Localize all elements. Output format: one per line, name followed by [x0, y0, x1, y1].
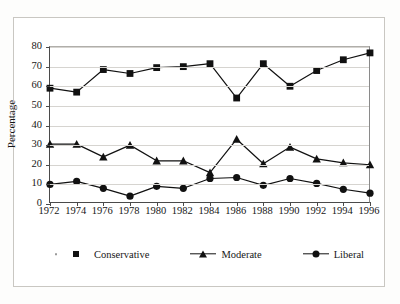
series-conservative — [47, 49, 374, 101]
data-point — [99, 153, 107, 161]
y-axis-tick-label: 10 — [32, 178, 43, 189]
data-point — [126, 193, 133, 200]
legend-item-moderate: Moderate — [190, 248, 261, 260]
square-marker-icon — [63, 248, 89, 260]
x-axis-tick-label: 1980 — [145, 206, 166, 217]
gridline — [50, 184, 369, 185]
y-axis-tick — [46, 47, 50, 48]
x-axis-tick-label: 1986 — [225, 206, 246, 217]
y-axis-tick — [46, 145, 50, 146]
y-axis-tick — [46, 126, 50, 127]
x-axis-tick-labels: 1972197419761978198019821984198619881990… — [49, 206, 370, 222]
chart-figure: Percentage 01020304050607080 19721974197… — [0, 0, 400, 304]
data-point — [286, 175, 293, 182]
y-axis-tick-label: 20 — [32, 159, 43, 170]
y-axis-tick — [46, 184, 50, 185]
y-axis-tick-label: 30 — [32, 139, 43, 150]
data-point — [127, 70, 134, 77]
y-axis-tick — [46, 165, 50, 166]
x-axis-tick-label: 1990 — [279, 206, 300, 217]
gridline — [50, 86, 369, 87]
legend-label-conservative: Conservative — [94, 249, 149, 260]
y-axis-tick — [46, 67, 50, 68]
data-point — [232, 135, 240, 143]
x-axis-tick-label: 1984 — [199, 206, 220, 217]
x-axis-tick-label: 1994 — [332, 206, 353, 217]
gridline — [50, 67, 369, 68]
data-point — [340, 186, 347, 193]
x-axis-tick-label: 1974 — [65, 206, 86, 217]
chart-legend: Conservative Moderate Liberal — [49, 243, 370, 265]
gridline — [50, 145, 369, 146]
data-point — [313, 180, 320, 187]
legend-label-moderate: Moderate — [221, 249, 261, 260]
data-point — [367, 49, 374, 56]
x-axis-tick-label: 1996 — [359, 206, 380, 217]
x-axis-tick-label: 1992 — [305, 206, 326, 217]
gridline — [50, 106, 369, 107]
x-axis-tick-label: 1982 — [172, 206, 193, 217]
legend-item-liberal: Liberal — [303, 248, 364, 260]
data-point — [313, 67, 320, 74]
series-line — [50, 53, 370, 98]
legend-item-conservative: Conservative — [63, 248, 149, 260]
data-point — [286, 143, 294, 151]
y-axis-tick-label: 60 — [32, 80, 43, 91]
data-point — [366, 190, 373, 197]
data-point — [73, 89, 80, 96]
series-moderate — [46, 135, 374, 176]
y-axis-tick — [46, 106, 50, 107]
x-axis-tick-label: 1972 — [39, 206, 60, 217]
data-point — [180, 185, 187, 192]
y-axis-tick-labels: 01020304050607080 — [14, 46, 46, 203]
data-point — [233, 174, 240, 181]
x-axis-tick-label: 1988 — [252, 206, 273, 217]
legend-label-liberal: Liberal — [334, 249, 364, 260]
y-axis-tick-label: 40 — [32, 119, 43, 130]
y-axis-tick-label: 80 — [32, 41, 43, 52]
data-point — [340, 56, 347, 63]
data-point — [312, 155, 320, 163]
x-axis-tick-label: 1978 — [119, 206, 140, 217]
y-axis-tick-label: 70 — [32, 60, 43, 71]
gridline — [50, 165, 369, 166]
plot-area — [49, 46, 370, 203]
gridline — [50, 126, 369, 127]
x-axis-tick-label: 1976 — [92, 206, 113, 217]
y-axis-tick — [46, 86, 50, 87]
circle-marker-icon — [303, 248, 329, 260]
data-point — [100, 185, 107, 192]
gridline — [50, 47, 369, 48]
y-axis-tick-label: 50 — [32, 100, 43, 111]
data-point — [206, 175, 213, 182]
series-liberal — [46, 174, 373, 200]
triangle-marker-icon — [190, 248, 216, 260]
data-point — [233, 95, 240, 102]
